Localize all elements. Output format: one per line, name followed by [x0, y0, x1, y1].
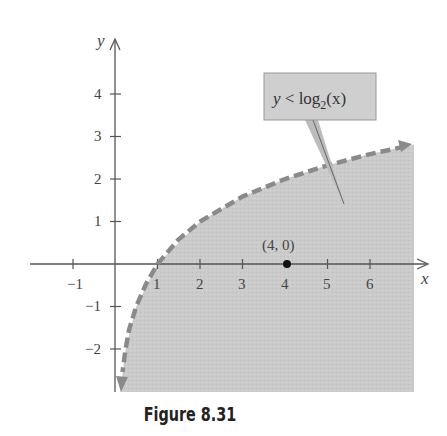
x-tick-label-5: 5 [323, 276, 331, 292]
callout-arg: (x) [326, 89, 346, 108]
x-tick-label-4: 4 [281, 276, 289, 292]
y-axis [110, 39, 120, 392]
y-axis-label: y [95, 31, 105, 50]
y-tick-label-4: 4 [94, 86, 102, 102]
y-tick-label-3: 3 [94, 128, 102, 144]
x-tick-label-1: 1 [153, 276, 161, 292]
x-tick-label-neg1: −1 [67, 276, 83, 292]
point-4-0 [283, 260, 291, 268]
y-tick-label-1: 1 [94, 213, 102, 229]
figure-caption: Figure 8.31 [53, 402, 327, 426]
y-tick-label-neg1: −1 [85, 298, 101, 314]
x-axis-label: x [420, 269, 429, 288]
point-label: (4, 0) [262, 237, 295, 254]
y-tick-label-2: 2 [94, 171, 102, 187]
x-tick-label-6: 6 [366, 276, 374, 292]
callout-lt-log: < log [281, 89, 321, 108]
x-tick-label-3: 3 [238, 276, 246, 292]
callout-y: y [271, 89, 281, 108]
x-tick-label-2: 2 [196, 276, 204, 292]
y-tick-label-neg2: −2 [85, 341, 101, 357]
graph-canvas: −1 1 2 3 4 5 6 4 3 2 1 −1 −2 y x (4, 0) … [0, 0, 447, 436]
